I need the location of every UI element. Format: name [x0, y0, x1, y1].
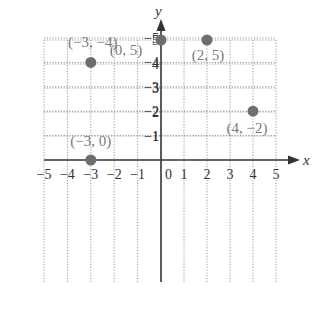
x-tick-label: 5: [273, 167, 280, 182]
data-point: [248, 106, 259, 117]
point-label: (2, 5): [192, 47, 225, 64]
y-tick-label: −1: [144, 129, 159, 144]
x-tick-label: 1: [181, 167, 188, 182]
data-point: [85, 57, 96, 68]
x-tick-label: −5: [37, 167, 52, 182]
data-point: [85, 155, 96, 166]
coordinate-plane: x y −5−4−3−2−101234554321−1−2−3−4−5 (0, …: [0, 0, 318, 309]
x-tick-label: −1: [130, 167, 145, 182]
x-tick-label: −3: [83, 167, 98, 182]
y-axis-label: y: [153, 3, 162, 19]
x-tick-label: 2: [204, 167, 211, 182]
x-tick-label: −2: [107, 167, 122, 182]
y-tick-label: −2: [144, 104, 159, 119]
y-tick-label: −3: [144, 80, 159, 95]
data-point: [202, 35, 213, 46]
point-label: (4, −2): [227, 120, 268, 137]
x-axis-arrow-icon: [288, 156, 300, 165]
x-tick-label: 3: [227, 167, 234, 182]
point-label: (−3, 0): [70, 133, 111, 150]
y-axis-arrow-icon: [157, 19, 166, 31]
data-point: [156, 35, 167, 46]
y-tick-label: −4: [144, 55, 159, 70]
data-points: (0, 5)(2, 5)(−3, 0)(4, −2)(−3, −4): [68, 34, 267, 165]
origin-label: 0: [165, 167, 172, 182]
x-tick-label: −4: [60, 167, 75, 182]
x-tick-label: 4: [250, 167, 257, 182]
x-axis-label: x: [302, 152, 310, 168]
point-label: (−3, −4): [68, 34, 117, 51]
